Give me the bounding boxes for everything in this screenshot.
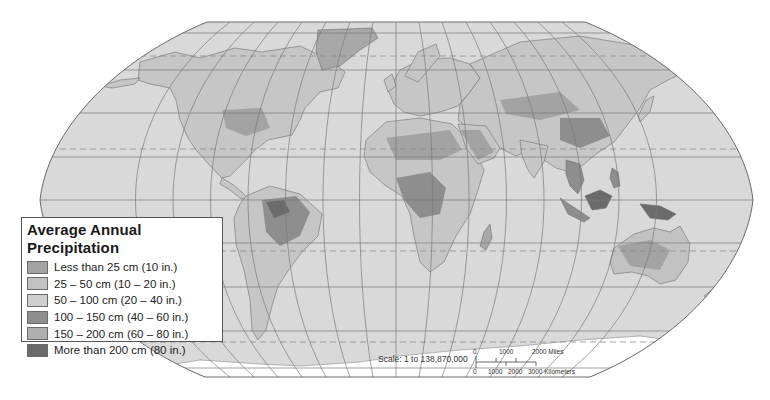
- legend-item: 100 – 150 cm (40 – 60 in.): [27, 309, 222, 326]
- legend-swatch: [27, 344, 48, 357]
- scale-km-1000: 1000: [488, 368, 502, 375]
- scale-miles-1000: 1000: [499, 348, 513, 355]
- scale-km-2000: 2000: [508, 368, 522, 375]
- scale-km-0: 0: [473, 368, 477, 375]
- scale-miles-0: 0: [473, 348, 477, 355]
- legend-item: 150 – 200 cm (60 – 80 in.): [27, 325, 222, 342]
- legend-swatch: [27, 311, 48, 324]
- legend-label: More than 200 cm (80 in.): [54, 344, 186, 356]
- legend-item: More than 200 cm (80 in.): [27, 342, 222, 359]
- legend-item: 50 – 100 cm (20 – 40 in.): [27, 292, 222, 309]
- legend-label: Less than 25 cm (10 in.): [54, 261, 177, 273]
- legend-swatch: [27, 261, 48, 274]
- scale-miles-2000: 2000 Miles: [532, 348, 563, 355]
- legend-title: Average Annual Precipitation: [27, 221, 222, 257]
- legend-label: 25 – 50 cm (10 – 20 in.): [54, 278, 175, 290]
- legend-label: 100 – 150 cm (40 – 60 in.): [54, 311, 188, 323]
- legend-item: 25 – 50 cm (10 – 20 in.): [27, 276, 222, 293]
- legend-item: Less than 25 cm (10 in.): [27, 259, 222, 276]
- legend-label: 50 – 100 cm (20 – 40 in.): [54, 294, 182, 306]
- legend-label: 150 – 200 cm (60 – 80 in.): [54, 328, 188, 340]
- scale-km-3000: 3000 Kilometers: [528, 368, 575, 375]
- legend-swatch: [27, 294, 48, 307]
- scale-ratio: Scale: 1 to 138,870,000: [378, 354, 468, 364]
- precipitation-world-map: Average Annual Precipitation Less than 2…: [0, 0, 770, 400]
- legend-box: Average Annual Precipitation Less than 2…: [21, 217, 223, 342]
- legend-swatch: [27, 327, 48, 340]
- legend-swatch: [27, 277, 48, 290]
